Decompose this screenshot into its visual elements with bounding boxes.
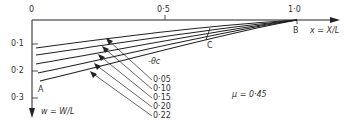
y-tick-label-0-3: 0·3 xyxy=(11,94,24,102)
curve-label-0-10: 0·10 xyxy=(153,85,171,93)
leader-arrow-0-20-icon xyxy=(94,63,101,70)
curve-label-0-05: 0·05 xyxy=(153,76,171,84)
x-axis-arrow-icon xyxy=(330,17,340,23)
leader-0-20 xyxy=(96,65,152,107)
theta-c-label: -θc xyxy=(148,58,160,66)
y-tick-label-0-1: 0·1 xyxy=(11,40,24,48)
leader-arrow-0-22-icon xyxy=(90,71,97,78)
curve-label-0-20: 0·20 xyxy=(153,103,171,111)
point-a-label: A xyxy=(38,86,43,94)
x-tick-label-1-0: 1·0 xyxy=(288,6,301,14)
y-axis-arrow-icon xyxy=(29,108,35,118)
point-b-label: B xyxy=(293,27,299,35)
leader-0-15 xyxy=(100,56,152,98)
mu-parameter-label: μ = 0·45 xyxy=(232,91,267,99)
curve-theta-0-22 xyxy=(40,20,297,81)
x-axis-label: x = X/L xyxy=(310,27,339,35)
x-tick-label-0-5: 0·5 xyxy=(157,6,170,14)
y-tick-label-0-2: 0·2 xyxy=(11,67,24,75)
leader-0-10 xyxy=(104,48,152,89)
curve-label-0-22: 0·22 xyxy=(153,112,171,120)
y-axis-label: w = W/L xyxy=(41,108,74,116)
leader-0-05 xyxy=(108,40,152,80)
origin-label: 0 xyxy=(29,6,34,14)
curve-label-0-15: 0·15 xyxy=(153,94,171,102)
leader-0-22 xyxy=(92,73,152,116)
point-c-label: C xyxy=(207,42,213,50)
